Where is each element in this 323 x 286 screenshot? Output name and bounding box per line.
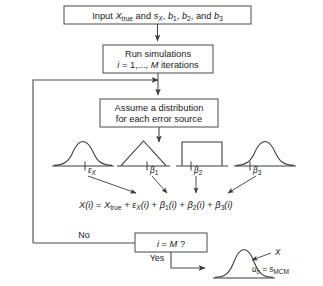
dist1-normal-curve xyxy=(54,142,112,166)
input-box[interactable]: Input Xtrue and sX, b1, b2, and b3 xyxy=(64,6,251,24)
dist3-label: β2 xyxy=(193,166,203,176)
dist1-label: εX xyxy=(88,166,97,176)
dist2-label: β1 xyxy=(149,166,159,176)
dist4-normal-curve xyxy=(236,142,294,166)
run-simulations-box[interactable]: Run simulations i = 1,..., M iterations xyxy=(103,45,213,73)
run-box-line1: Run simulations xyxy=(125,49,191,59)
no-branch-label: No xyxy=(78,230,90,240)
dist3-rectangle xyxy=(182,142,222,166)
flowchart-svg: Input Xtrue and sX, b1, b2, and b3 Run s… xyxy=(0,0,323,286)
arrow-dist2-to-equation xyxy=(152,176,167,193)
input-box-label: Input Xtrue and sX, b1, b2, and b3 xyxy=(92,11,223,22)
assume-distribution-box[interactable]: Assume a distribution for each error sou… xyxy=(100,99,218,127)
output-x-label: X xyxy=(274,248,281,257)
distribution-normal-beta3: β3 xyxy=(234,142,296,176)
simulation-equation: X(i) = Xtrue + εX(i) + β1(i) + β2(i) + β… xyxy=(78,200,233,211)
run-box-line2: i = 1,..., M iterations xyxy=(117,60,199,70)
distribution-normal-epsilon-x: εX xyxy=(52,142,114,176)
distribution-rectangular-beta2: β2 xyxy=(176,142,228,176)
arrow-dist4-to-equation xyxy=(228,176,256,193)
arrow-dist1-to-equation xyxy=(88,176,136,193)
connector-yes-branch xyxy=(171,252,205,268)
assume-box-line1: Assume a distribution xyxy=(115,103,204,113)
decision-box[interactable]: i = M ? xyxy=(135,233,207,252)
flowchart-canvas: Input Xtrue and sX, b1, b2, and b3 Run s… xyxy=(0,0,323,286)
arrow-to-output-x xyxy=(252,253,271,260)
distribution-triangular-beta1: β1 xyxy=(117,141,170,176)
output-uncertainty-label: uc = sMCM xyxy=(252,265,289,275)
decision-box-label: i = M ? xyxy=(157,239,185,249)
dist4-label: β3 xyxy=(252,166,262,176)
dist2-triangle xyxy=(121,141,166,166)
assume-box-line2: for each error source xyxy=(116,114,202,124)
yes-branch-label: Yes xyxy=(150,253,165,263)
